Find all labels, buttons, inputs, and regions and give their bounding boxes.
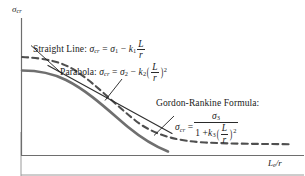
annotation-parabola: Parabola: σcr = σ2 − k2(Lr)2 — [60, 62, 167, 84]
gordon-den-ratio-den: r — [221, 134, 228, 145]
gordon-den-one: 1 + — [195, 128, 208, 138]
parabola-ratio: Lr — [151, 62, 158, 84]
gordon-main-fraction: σ31 +k3(Lr)2 — [194, 111, 237, 145]
gordon-num-sub: 3 — [217, 114, 220, 121]
straight-line-ratio-num: L — [137, 39, 144, 49]
y-axis-subscript: cr — [16, 7, 21, 14]
straight-line-coef-sub: 1 — [133, 47, 136, 54]
straight-line-equals: = — [102, 44, 107, 54]
parabola-exponent: 2 — [164, 66, 167, 73]
parabola-group: (Lr) — [146, 62, 164, 84]
parabola-ratio-num: L — [151, 62, 158, 72]
gordon-numerator: σ3 — [194, 111, 237, 122]
parabola-paren-close: ) — [160, 65, 163, 80]
parabola-lhs-sub: cr — [104, 70, 110, 77]
straight-line-name: Straight Line: — [33, 44, 87, 54]
straight-line-lhs-sub: cr — [94, 47, 100, 54]
buckling-stress-figure: σcr Le/r Straight Line: σcr = σ1 − k1Lr … — [0, 0, 305, 176]
annotation-gordon-rankine-equation: σcr =σ31 +k3(Lr)2 — [175, 111, 239, 145]
gordon-den-ratio: Lr — [221, 123, 228, 145]
parabola-ratio-den: r — [151, 72, 158, 83]
gordon-den-ratio-num: L — [221, 123, 228, 133]
parabola-minus: − — [131, 67, 136, 77]
straight-line-ratio-den: r — [137, 49, 144, 60]
annotation-straight-line: Straight Line: σcr = σ1 − k1Lr — [33, 39, 146, 61]
gordon-lhs-sub: cr — [180, 126, 186, 133]
gordon-paren-open: ( — [216, 128, 219, 141]
y-axis-label: σcr — [12, 4, 22, 14]
parabola-equals: = — [112, 67, 117, 77]
annotation-gordon-rankine-title: Gordon-Rankine Formula: — [156, 98, 259, 108]
parabola-term1-sub: 2 — [125, 70, 128, 77]
gordon-den-exponent: 2 — [233, 127, 236, 134]
x-axis-rest: /r — [276, 158, 282, 168]
straight-line-minus: − — [121, 44, 126, 54]
parabola-paren-open: ( — [147, 65, 150, 80]
gordon-paren-close: ) — [230, 128, 233, 141]
gordon-den-group: (Lr) — [216, 123, 234, 145]
gordon-denominator: 1 +k3(Lr)2 — [194, 122, 237, 145]
gordon-rankine-name: Gordon-Rankine Formula: — [156, 98, 259, 108]
x-axis-label: Le/r — [268, 158, 282, 168]
straight-line-ratio: Lr — [137, 39, 144, 61]
parabola-name: Parabola: — [60, 67, 97, 77]
plot-canvas — [0, 0, 305, 176]
straight-line-term1-sub: 1 — [115, 47, 118, 54]
gordon-equals: = — [188, 122, 193, 132]
